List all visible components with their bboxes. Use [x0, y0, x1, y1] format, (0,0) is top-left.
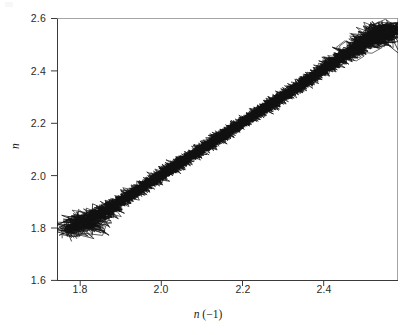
x-tick-label-0: 1.8 — [72, 283, 87, 295]
data-series-return-map — [48, 19, 412, 241]
y-tick-label-0: 2.6 — [16, 12, 46, 24]
y-axis-title: n — [9, 124, 21, 168]
y-tick-label-5: 1.6 — [16, 274, 46, 286]
x-tick-label-1: 2.0 — [153, 283, 168, 295]
x-axis-title-suffix: (−1) — [199, 308, 222, 320]
y-tick-label-3: 2.0 — [16, 170, 46, 182]
y-tick-label-4: 1.8 — [16, 222, 46, 234]
y-axis-ticks — [51, 19, 57, 281]
x-tick-label-3: 2.4 — [316, 283, 331, 295]
plot-canvas — [0, 0, 416, 335]
y-tick-label-1: 2.4 — [16, 65, 46, 77]
x-axis-title: n (−1) — [0, 308, 416, 320]
figure-container: 2.6 2.4 2.2 2.0 1.8 1.6 1.8 2.0 2.2 2.4 … — [0, 0, 416, 335]
x-tick-label-2: 2.2 — [235, 283, 250, 295]
